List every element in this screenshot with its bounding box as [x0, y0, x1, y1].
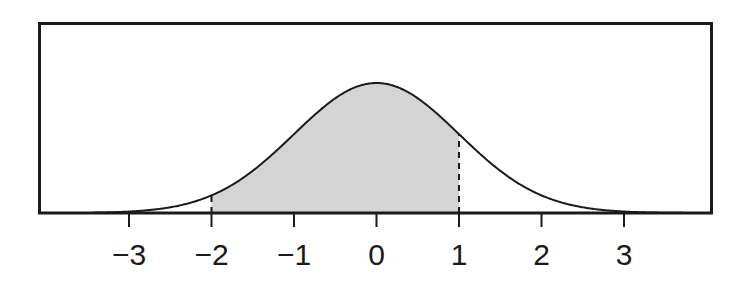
axis-tick-marks [129, 214, 624, 227]
x-axis-tick-label: −1 [264, 240, 324, 270]
x-axis-tick-label: 2 [512, 240, 572, 270]
x-axis-tick-label: 1 [429, 240, 489, 270]
x-axis-tick-label: −2 [182, 240, 242, 270]
shaded-area-group [212, 83, 460, 213]
normal-curve-figure: −3−2−10123 [0, 0, 746, 286]
x-axis-tick-label: 0 [347, 240, 407, 270]
shaded-area-minus2-to-1 [212, 83, 460, 213]
x-axis-tick-label: −3 [99, 240, 159, 270]
x-axis-tick-label: 3 [594, 240, 654, 270]
